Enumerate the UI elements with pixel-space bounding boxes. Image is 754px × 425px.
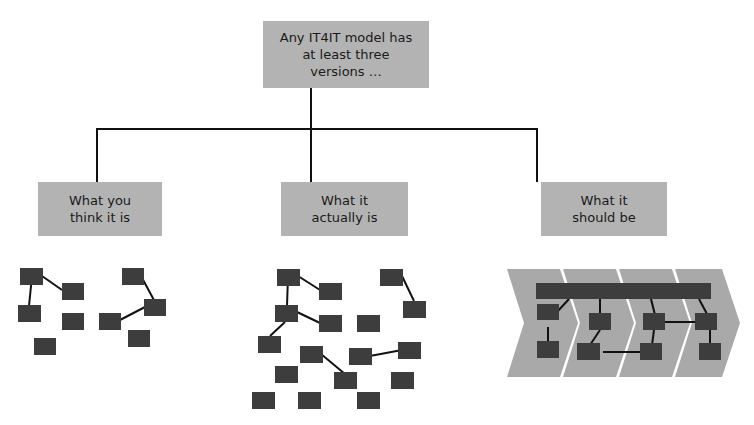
cluster-think bbox=[18, 268, 166, 355]
platform-bar bbox=[536, 283, 711, 299]
child-box-actual: What it actually is bbox=[281, 182, 408, 236]
tree-connectors bbox=[97, 88, 537, 182]
cluster-should bbox=[507, 269, 740, 377]
child-label-think: What you think it is bbox=[69, 192, 131, 226]
child-box-think: What you think it is bbox=[38, 182, 162, 236]
root-label: Any IT4IT model has at least three versi… bbox=[280, 29, 413, 80]
child-label-actual: What it actually is bbox=[312, 192, 378, 226]
root-box: Any IT4IT model has at least three versi… bbox=[263, 21, 429, 88]
child-box-should: What it should be bbox=[541, 182, 667, 236]
cluster-actual bbox=[252, 269, 426, 409]
child-label-should: What it should be bbox=[572, 192, 635, 226]
